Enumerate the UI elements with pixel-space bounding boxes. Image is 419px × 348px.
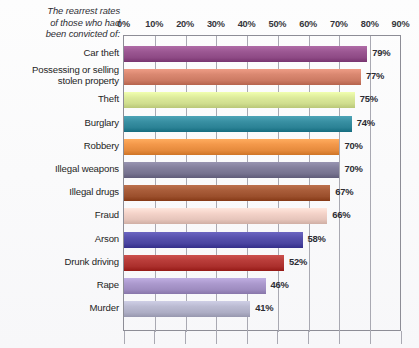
category-label: Theft	[2, 93, 119, 104]
bar-value-label: 70%	[344, 140, 362, 151]
bar[interactable]	[124, 278, 266, 294]
x-axis-tick-mark	[370, 331, 371, 344]
x-axis-tick-label: 50%	[260, 19, 294, 29]
x-axis-tick-label: 0%	[107, 19, 141, 29]
category-label-line: Burglary	[2, 117, 119, 128]
category-label-line: Murder	[2, 302, 119, 313]
category-label: Arson	[2, 233, 119, 244]
category-label-line: Rape	[2, 279, 119, 290]
bar[interactable]	[124, 301, 250, 317]
bar[interactable]	[124, 208, 327, 224]
category-label-line: Illegal drugs	[2, 186, 119, 197]
category-label-line: stolen property	[2, 75, 119, 86]
x-axis-tick-label: 70%	[322, 19, 356, 29]
chart-title-line-0: The rearrest rates	[8, 5, 120, 17]
bar-value-label: 74%	[357, 117, 375, 128]
x-axis-tick-label: 10%	[137, 19, 171, 29]
bar-row: Possessing or sellingstolen property77%	[0, 65, 419, 88]
bar[interactable]	[124, 46, 367, 62]
bar-value-label: 66%	[332, 209, 350, 220]
category-label-line: Theft	[2, 93, 119, 104]
bar-row: Robbery70%	[0, 135, 419, 158]
bar-row: Rape46%	[0, 274, 419, 297]
x-axis-tick-mark	[216, 331, 217, 344]
category-label: Rape	[2, 279, 119, 290]
x-axis-tick-label: 20%	[168, 19, 202, 29]
category-label: Car theft	[2, 47, 119, 58]
bar-value-label: 79%	[372, 47, 390, 58]
category-label: Illegal drugs	[2, 186, 119, 197]
bar[interactable]	[124, 162, 339, 178]
category-label-line: Possessing or selling	[2, 64, 119, 75]
x-axis-tick-label: 60%	[291, 19, 325, 29]
category-label: Robbery	[2, 140, 119, 151]
category-label-line: Drunk driving	[2, 256, 119, 267]
category-label-line: Arson	[2, 233, 119, 244]
category-label-line: Fraud	[2, 209, 119, 220]
x-axis-tick-mark	[277, 331, 278, 344]
bar-row: Burglary74%	[0, 112, 419, 135]
x-axis-tick-mark	[401, 331, 402, 344]
x-axis-tick-labels: 0%10%20%30%40%50%60%70%80%90%	[0, 19, 419, 32]
bar[interactable]	[124, 232, 303, 248]
x-axis-tick-label: 40%	[230, 19, 264, 29]
category-label-line: Robbery	[2, 140, 119, 151]
category-label: Fraud	[2, 209, 119, 220]
bar-value-label: 52%	[289, 256, 307, 267]
category-label: Drunk driving	[2, 256, 119, 267]
x-axis-tick-mark	[185, 331, 186, 344]
bar-row: Arson58%	[0, 228, 419, 251]
category-label-line: Car theft	[2, 47, 119, 58]
x-axis-tick-label: 30%	[199, 19, 233, 29]
bar-row: Murder41%	[0, 297, 419, 320]
x-axis-tick-mark	[308, 331, 309, 344]
bar-row: Fraud66%	[0, 204, 419, 227]
bar-row: Drunk driving52%	[0, 251, 419, 274]
bar[interactable]	[124, 69, 361, 85]
bar[interactable]	[124, 185, 330, 201]
category-label-line: Illegal weapons	[2, 163, 119, 174]
bar-value-label: 77%	[366, 70, 384, 81]
category-label: Possessing or sellingstolen property	[2, 64, 119, 86]
bar-row: Illegal drugs67%	[0, 181, 419, 204]
bar-row: Theft75%	[0, 88, 419, 111]
bar-row: Car theft79%	[0, 42, 419, 65]
bar-value-label: 70%	[344, 163, 362, 174]
bar-value-label: 58%	[308, 233, 326, 244]
bar[interactable]	[124, 139, 339, 155]
bar-value-label: 67%	[335, 186, 353, 197]
bar[interactable]	[124, 116, 352, 132]
category-label: Illegal weapons	[2, 163, 119, 174]
bar-chart: The rearrest ratesof those who hadbeen c…	[0, 0, 419, 348]
x-axis-tick-mark	[154, 331, 155, 344]
x-axis-tick-mark	[124, 331, 125, 344]
bar-value-label: 46%	[271, 279, 289, 290]
x-axis-tick-mark	[247, 331, 248, 344]
bar[interactable]	[124, 255, 284, 271]
category-label: Burglary	[2, 117, 119, 128]
x-axis-tick-mark	[339, 331, 340, 344]
bar[interactable]	[124, 92, 355, 108]
category-label: Murder	[2, 302, 119, 313]
bar-row: Illegal weapons70%	[0, 158, 419, 181]
bar-value-label: 41%	[255, 302, 273, 313]
bar-value-label: 75%	[360, 93, 378, 104]
x-axis-tick-label: 80%	[353, 19, 387, 29]
x-axis-tick-label: 90%	[384, 19, 418, 29]
